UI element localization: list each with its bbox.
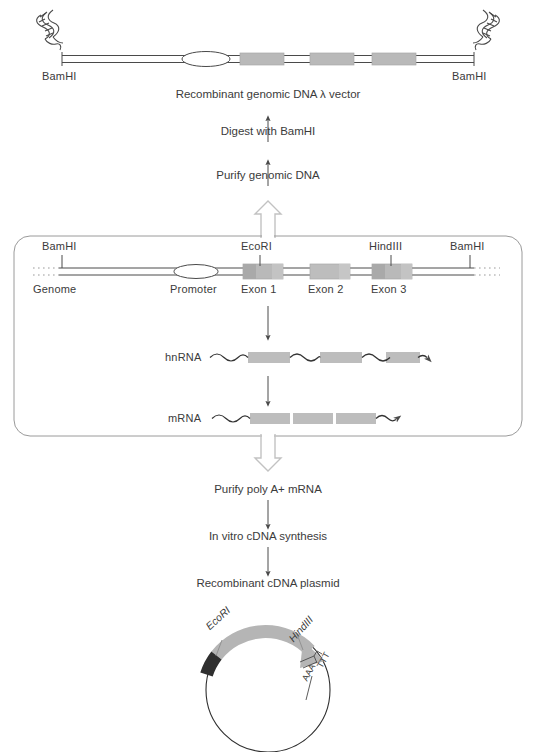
- plasmid-map: [206, 628, 330, 752]
- top-left-bamhi-label: BamHI: [42, 70, 77, 82]
- dna-helix-right-icon: [473, 10, 499, 50]
- mrna-molecule: [212, 413, 396, 424]
- promoter-ellipse-genome: [174, 265, 218, 279]
- hnrna-molecule: [210, 352, 427, 363]
- mrna-label: mRNA: [168, 412, 201, 424]
- exon-box-genome-2: [310, 264, 350, 279]
- plasmid-ecori-label: EcoRI: [203, 604, 232, 632]
- genome-line-group: [33, 255, 500, 279]
- hnrna-label: hnRNA: [165, 351, 201, 363]
- figure-canvas: BamHI BamHI Recombinant genomic DNA λ ve…: [0, 0, 536, 752]
- genome-site-label-ecori: EcoRI: [241, 240, 272, 252]
- exon-box-top-2: [310, 53, 354, 65]
- flow-step-digest-bamhi: Digest with BamHI: [0, 125, 536, 137]
- hollow-arrow-down: [255, 434, 281, 471]
- top-right-bamhi-label: BamHI: [452, 70, 487, 82]
- genome-site-label-hindiii: HindIII: [369, 240, 402, 252]
- flow-step-purify-polya-mrna: Purify poly A+ mRNA: [0, 483, 536, 495]
- flow-step-invitro-cdna-synthesis: In vitro cDNA synthesis: [0, 530, 536, 542]
- promoter-label: Promoter: [170, 283, 217, 295]
- top-construct-caption: Recombinant genomic DNA λ vector: [0, 88, 536, 100]
- dna-helix-left-icon: [37, 10, 63, 50]
- promoter-ellipse-top: [182, 52, 230, 67]
- flow-step-recombinant-cdna-plasmid: Recombinant cDNA plasmid: [0, 577, 536, 589]
- plasmid-dark-segment: [207, 656, 217, 675]
- exon-3-label: Exon 3: [371, 283, 406, 295]
- exon-2-label: Exon 2: [308, 283, 343, 295]
- genome-site-label-bamhi-left: BamHI: [42, 240, 77, 252]
- plasmid-leader-ecori: [216, 640, 222, 656]
- genome-panel-box: [14, 236, 522, 436]
- plasmid-poly-t-label: TTT: [315, 650, 332, 669]
- exon-box-top-3: [372, 53, 416, 65]
- plasmid-hindiii-label: HindIII: [286, 613, 315, 644]
- genome-label: Genome: [33, 283, 76, 295]
- exon-box-genome-1: [243, 264, 283, 279]
- exon-1-label: Exon 1: [241, 283, 276, 295]
- flow-step-purify-genomic-dna: Purify genomic DNA: [0, 169, 536, 181]
- exon-box-top-1: [240, 53, 284, 65]
- exon-box-genome-3: [372, 264, 412, 279]
- plasmid-backbone-circle: [206, 628, 330, 752]
- diagram-graphics: [0, 0, 536, 752]
- genome-site-label-bamhi-right: BamHI: [450, 240, 485, 252]
- top-vector-construct: [37, 10, 500, 67]
- hollow-arrow-up: [255, 201, 281, 238]
